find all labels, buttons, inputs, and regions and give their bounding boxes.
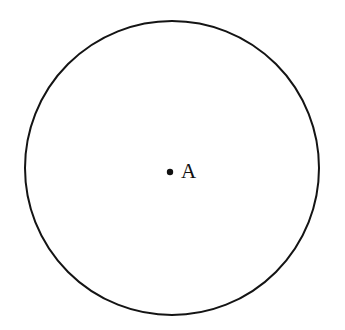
figure-background: [0, 0, 345, 330]
geometry-figure: A: [0, 0, 345, 330]
figure-canvas: [0, 0, 345, 330]
center-dot: [167, 169, 173, 175]
center-point-label: A: [181, 161, 196, 182]
